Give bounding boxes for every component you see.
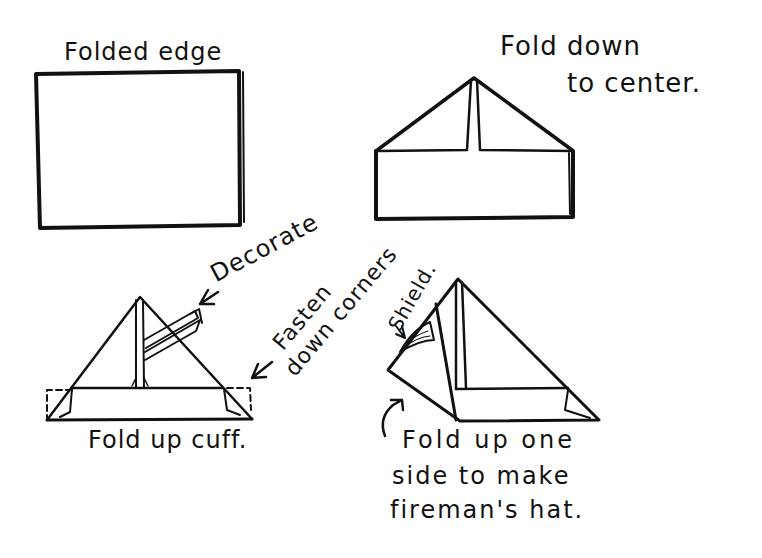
step4-label-line3: fireman's hat. [390, 498, 584, 522]
step4-label-line2: side to make [392, 464, 570, 488]
step3-fold-up-cuff [47, 290, 272, 420]
step2-label-line2: to center. [567, 70, 701, 96]
step2-label-line1: Fold down [500, 33, 641, 59]
step3-fold-up-cuff-label: Fold up cuff. [88, 428, 247, 452]
step1-label: Folded edge [64, 40, 222, 64]
step2-fold-to-center [376, 78, 573, 219]
step1-folded-paper [36, 71, 244, 228]
step4-label-line1: Fold up one [402, 428, 575, 452]
